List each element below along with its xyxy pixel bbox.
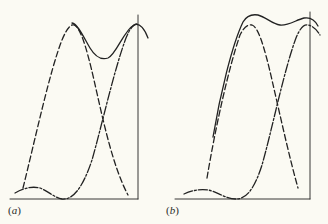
- panel-b-label: (b): [166, 204, 179, 216]
- panel-b-dashed-curve: [207, 25, 298, 188]
- panel-b: [175, 12, 320, 199]
- figure-canvas: [0, 0, 328, 224]
- panel-b-dashdot-curve: [184, 25, 320, 199]
- panel-a-dashed-curve: [23, 25, 128, 195]
- panel-a-label-close: ): [17, 204, 21, 216]
- panel-b-label-close: ): [175, 204, 179, 216]
- panel-a-label: (a): [8, 204, 21, 216]
- panel-a: [10, 15, 148, 199]
